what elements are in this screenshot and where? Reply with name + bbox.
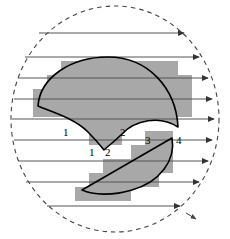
geometry-figure [0, 0, 230, 239]
label-2-upper: 2 [120, 127, 126, 138]
label-1-upper: 1 [63, 127, 69, 138]
label-2-lower: 2 [105, 147, 111, 158]
label-4: 4 [176, 135, 182, 146]
boundary-flow-arrow [186, 213, 196, 219]
figure-canvas: 1 2 1 2 3 4 [0, 0, 230, 239]
label-1-lower: 1 [89, 147, 95, 158]
label-3: 3 [145, 135, 151, 146]
